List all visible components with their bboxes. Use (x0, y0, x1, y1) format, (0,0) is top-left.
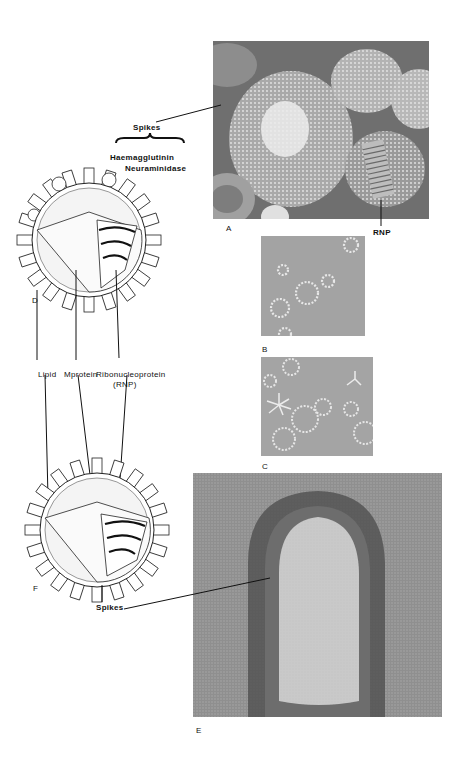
rnp-leader-top (116, 270, 119, 358)
spikes-brace (116, 133, 184, 143)
panel-a-micrograph (213, 41, 429, 219)
rnp-leader-bottom (118, 375, 127, 510)
panel-b-micrograph (261, 236, 365, 336)
panel-c-image (261, 357, 373, 456)
ribonucleoprotein-label: Ribonucleoprotein (96, 370, 166, 379)
haemagglutinin-label: Haemagglutinin (110, 153, 174, 162)
spikes-label-top: Spikes (133, 123, 161, 132)
spikes-leader-line (156, 105, 221, 122)
ribonucleoprotein-abbr-label: (RNP) (113, 380, 137, 389)
panel-c-label: C (262, 462, 268, 471)
panel-f-label: F (33, 584, 38, 593)
panel-b-label: B (262, 345, 267, 354)
panel-b-image (261, 236, 365, 336)
rnp-label: RNP (373, 228, 391, 237)
neuraminidase-label: Neuraminidase (125, 164, 186, 173)
mprotein-leader-bottom (78, 375, 93, 500)
panel-a-image (213, 41, 429, 219)
virion-f-drawing (25, 458, 169, 602)
mprotein-label: Mprotein (64, 370, 98, 379)
panel-e-label: E (196, 726, 201, 735)
panel-c-micrograph (261, 357, 373, 456)
panel-d-label: D (32, 296, 38, 305)
virion-d-drawing (17, 168, 161, 312)
panel-e-micrograph (193, 473, 442, 717)
panel-a-label: A (226, 224, 231, 233)
lipid-label: Lipid (38, 370, 56, 379)
lipid-leader-bottom (45, 375, 48, 497)
spikes-label-bottom: Spikes (96, 603, 124, 612)
panel-e-image (193, 473, 442, 717)
